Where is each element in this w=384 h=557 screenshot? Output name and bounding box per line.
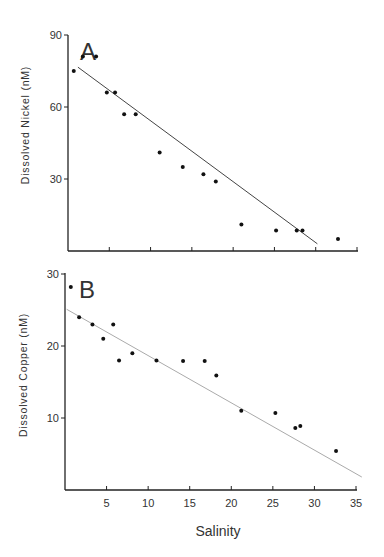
data-point	[130, 351, 134, 355]
data-point	[336, 237, 340, 241]
x-tick-label: 10	[142, 497, 154, 509]
x-axis-label: Salinity	[195, 523, 240, 539]
data-point	[298, 424, 302, 428]
data-point	[122, 112, 126, 116]
y-axis-label: Dissolved Copper (nM)	[17, 313, 29, 437]
data-point	[154, 358, 158, 362]
data-point	[117, 358, 121, 362]
x-tick-label: 5	[104, 497, 110, 509]
x-tick-label: 35	[350, 497, 362, 509]
data-point	[105, 91, 109, 95]
y-axis-label: Dissolved Nickel (nM)	[19, 66, 31, 184]
data-point	[113, 91, 117, 95]
data-point	[239, 223, 243, 227]
y-tick-label: 60	[50, 101, 62, 113]
panel-b-copper: 5101520253035102030Dissolved Copper (nM)…	[17, 268, 362, 509]
data-point	[90, 322, 94, 326]
data-point	[274, 229, 278, 233]
data-point	[101, 337, 105, 341]
data-point	[293, 426, 297, 430]
panel-a-nickel: 306090Dissolved Nickel (nM)A	[19, 29, 358, 251]
data-point	[301, 229, 305, 233]
data-point	[214, 179, 218, 183]
y-tick-label: 30	[50, 173, 62, 185]
data-point	[181, 359, 185, 363]
data-point	[273, 411, 277, 415]
data-point	[214, 374, 218, 378]
data-point	[72, 69, 76, 73]
data-point	[239, 409, 243, 413]
panel-letter: A	[80, 38, 96, 65]
data-point	[77, 315, 81, 319]
y-tick-label: 30	[47, 268, 59, 280]
salinity-figure: 306090Dissolved Nickel (nM)A 51015202530…	[0, 0, 384, 557]
x-tick-label: 25	[267, 497, 279, 509]
chart-canvas: 306090Dissolved Nickel (nM)A 51015202530…	[0, 0, 384, 557]
data-point	[203, 359, 207, 363]
y-tick-label: 90	[50, 29, 62, 41]
regression-line	[67, 309, 362, 477]
y-tick-label: 20	[47, 340, 59, 352]
x-tick-label: 20	[225, 497, 237, 509]
data-point	[201, 172, 205, 176]
data-point	[181, 165, 185, 169]
data-point	[295, 229, 299, 233]
data-point	[69, 285, 73, 289]
data-point	[81, 55, 85, 59]
x-tick-label: 15	[184, 497, 196, 509]
data-point	[94, 55, 98, 59]
data-point	[111, 322, 115, 326]
data-point	[134, 112, 138, 116]
data-point	[334, 449, 338, 453]
data-point	[158, 151, 162, 155]
y-tick-label: 10	[47, 412, 59, 424]
panel-letter: B	[79, 276, 95, 303]
x-tick-label: 30	[308, 497, 320, 509]
